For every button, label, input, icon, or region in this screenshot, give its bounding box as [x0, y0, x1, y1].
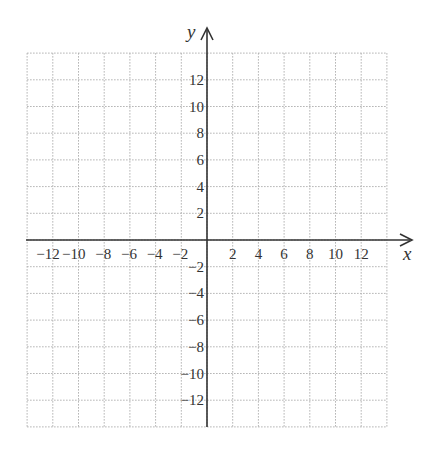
y-tick-label: 6 [197, 152, 205, 168]
y-tick-label: −4 [188, 285, 204, 301]
x-tick-label: 10 [328, 246, 343, 262]
x-tick-label: −8 [95, 246, 111, 262]
y-tick-label: −2 [188, 259, 204, 275]
y-tick-label: 4 [197, 179, 205, 195]
y-tick-label: −6 [188, 312, 204, 328]
x-tick-label: 6 [280, 246, 288, 262]
y-tick-label: 12 [189, 72, 204, 88]
y-tick-label: 2 [197, 205, 205, 221]
x-tick-label: 12 [354, 246, 369, 262]
x-tick-label: 4 [255, 246, 263, 262]
y-tick-label: −12 [181, 392, 204, 408]
y-tick-label: 8 [197, 125, 205, 141]
y-tick-label: −10 [181, 366, 204, 382]
x-tick-label: 8 [306, 246, 314, 262]
y-tick-label: −8 [188, 339, 204, 355]
coordinate-plane: x y −12−10−8−6−4−224681012 12108642−2−4−… [0, 0, 438, 453]
x-axis-label: x [402, 243, 412, 264]
y-tick-label: 10 [189, 99, 204, 115]
x-tick-label: −2 [172, 246, 188, 262]
x-tick-label: −6 [121, 246, 137, 262]
x-tick-label: 2 [229, 246, 237, 262]
x-tick-label: −10 [62, 246, 85, 262]
x-tick-label: −4 [147, 246, 163, 262]
y-axis-label: y [185, 21, 196, 42]
x-tick-label: −12 [36, 246, 59, 262]
axes: x y [26, 21, 412, 427]
